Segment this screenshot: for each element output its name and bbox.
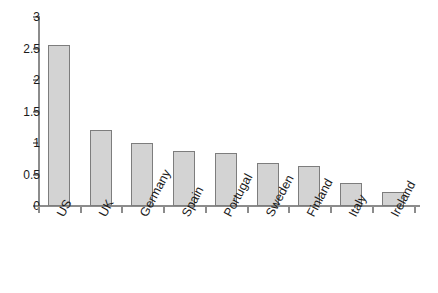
- y-axis-tick-label: 0: [12, 200, 40, 212]
- y-axis-tick-label: 2.5: [12, 43, 40, 55]
- x-axis-tick: [121, 206, 123, 213]
- x-axis-tick: [80, 206, 82, 213]
- y-axis-tick-label-wrap: 1: [0, 137, 40, 149]
- x-axis-tick: [414, 206, 416, 213]
- y-axis-tick-label-wrap: 0.5: [0, 169, 40, 181]
- bar: [48, 45, 70, 206]
- y-axis-tick-label: 1.5: [12, 106, 40, 118]
- y-axis-tick-label-wrap: 2.5: [0, 43, 40, 55]
- y-axis-tick-label: 2: [12, 74, 40, 86]
- x-axis-tick: [205, 206, 207, 213]
- x-axis-tick: [38, 206, 40, 213]
- x-axis-tick: [330, 206, 332, 213]
- bar: [90, 130, 112, 206]
- y-axis-tick-label: 0.5: [12, 169, 40, 181]
- x-axis-tick: [247, 206, 249, 213]
- x-axis-tick: [163, 206, 165, 213]
- y-axis-tick-label-wrap: 0: [0, 200, 40, 212]
- y-axis-tick-label: 1: [12, 137, 40, 149]
- y-axis-tick-label: 3: [12, 11, 40, 23]
- x-axis-tick: [288, 206, 290, 213]
- y-axis-tick-label-wrap: 3: [0, 11, 40, 23]
- bar-chart: 00.511.522.53 USUKGermanySpainPortugalSw…: [0, 0, 438, 293]
- y-axis-tick-label-wrap: 1.5: [0, 106, 40, 118]
- plot-area: [38, 17, 420, 206]
- y-axis-tick-label-wrap: 2: [0, 74, 40, 86]
- x-axis-tick: [372, 206, 374, 213]
